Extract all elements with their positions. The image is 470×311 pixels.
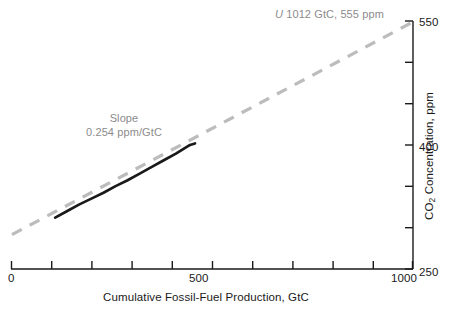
y-axis-title-prefix: CO — [423, 202, 435, 219]
endpoint-annotation-symbol: U — [275, 8, 283, 20]
slope-annotation-line2: 0.254 ppm/GtC — [72, 125, 176, 139]
chart-figure: 0 500 1000 250 400 550 Cumulative Fossil… — [0, 0, 470, 311]
observed-data-line — [55, 144, 195, 218]
y-axis-ticks — [405, 21, 413, 269]
x-tick-label-0: 0 — [8, 272, 15, 284]
endpoint-annotation: U 1012 GtC, 555 ppm — [275, 8, 384, 20]
x-axis-ticks — [12, 261, 413, 269]
y-axis-title: CO2 Concentration, ppm — [423, 69, 435, 244]
slope-annotation-line1: Slope — [72, 111, 176, 125]
endpoint-annotation-text: 1012 GtC, 555 ppm — [283, 8, 384, 20]
y-tick-label-550: 550 — [419, 16, 439, 28]
y-tick-label-250: 250 — [419, 266, 439, 278]
y-axis-title-subscript: 2 — [427, 198, 437, 203]
x-axis-title: Cumulative Fossil-Fuel Production, GtC — [0, 291, 412, 303]
chart-plot-area — [0, 0, 470, 311]
slope-annotation: Slope 0.254 ppm/GtC — [72, 111, 176, 139]
x-tick-label-1000: 1000 — [391, 272, 417, 284]
y-axis-title-suffix: Concentration, ppm — [423, 92, 435, 197]
x-tick-label-500: 500 — [189, 272, 209, 284]
